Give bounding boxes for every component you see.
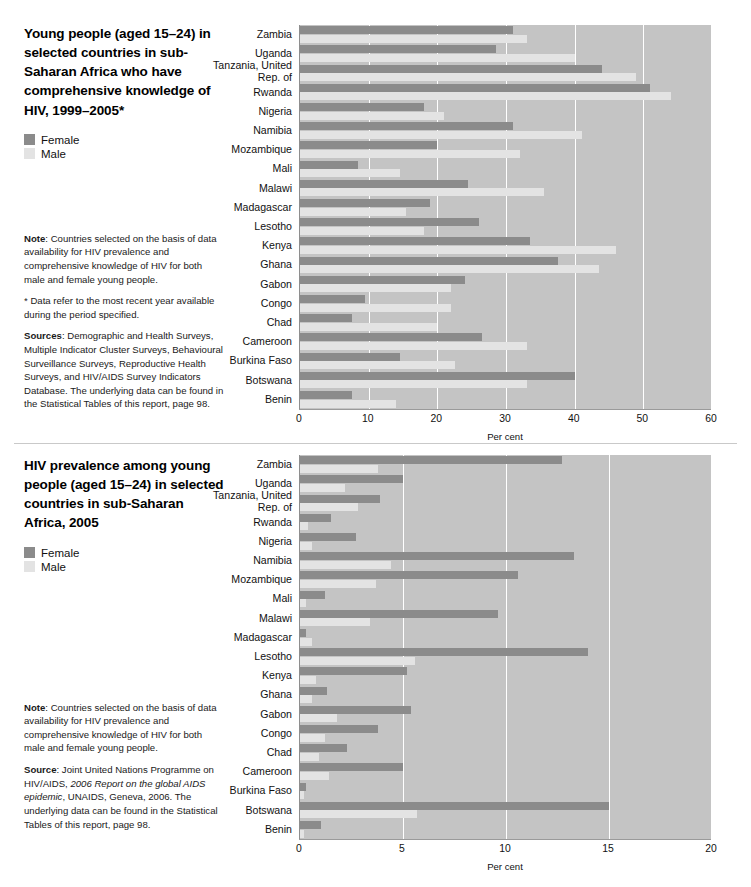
bar-male <box>300 208 406 216</box>
category-label: Lesotho <box>254 221 292 232</box>
bar-male <box>300 676 316 684</box>
bar-female <box>300 199 430 207</box>
bar-female <box>300 610 498 618</box>
x-axis-tick-label: 5 <box>399 843 405 854</box>
bar-female <box>300 475 403 483</box>
x-axis-tick-label: 10 <box>499 843 511 854</box>
bar-female <box>300 353 400 361</box>
bar-female <box>300 456 562 464</box>
gridline <box>506 455 507 839</box>
category-label: Cameroon <box>243 766 292 777</box>
bar-female <box>300 571 518 579</box>
category-label: Nigeria <box>258 536 292 547</box>
bar-female <box>300 744 347 752</box>
bar-female <box>300 648 588 656</box>
bar-female <box>300 725 378 733</box>
x-axis-title: Per cent <box>487 431 523 442</box>
category-label: Burkina Faso <box>230 355 292 366</box>
x-axis-tick-label: 20 <box>431 413 443 424</box>
bar-female <box>300 180 468 188</box>
bar-female <box>300 161 358 169</box>
bar-female <box>300 391 352 399</box>
bar-male <box>300 638 312 646</box>
category-label: Nigeria <box>258 106 292 117</box>
x-axis-tick-label: 15 <box>602 843 614 854</box>
category-label: Mozambique <box>231 144 292 155</box>
category-axis-labels: ZambiaUgandaTanzania, UnitedRep. ofRwand… <box>89 455 292 839</box>
bar-female <box>300 821 321 829</box>
legend-swatch-female <box>24 134 35 145</box>
bar-male <box>300 227 424 235</box>
gridline <box>369 25 370 409</box>
category-label: Congo <box>261 298 292 309</box>
bar-male <box>300 657 415 665</box>
category-label: Kenya <box>262 670 292 681</box>
gridline <box>403 455 404 839</box>
bar-male <box>300 150 520 158</box>
legend-label-female: Female <box>41 134 79 146</box>
category-label: Mali <box>273 593 292 604</box>
bar-female <box>300 667 407 675</box>
bar-male <box>300 73 636 81</box>
bar-male <box>300 599 306 607</box>
note-lead: Sources <box>24 330 62 341</box>
bar-male <box>300 284 451 292</box>
category-axis-labels: ZambiaUgandaTanzania, UnitedRep. ofRwand… <box>89 25 292 409</box>
category-label: Gabon <box>260 279 292 290</box>
bar-female <box>300 237 530 245</box>
panel-divider <box>14 443 737 444</box>
bar-female <box>300 591 325 599</box>
category-label: Tanzania, UnitedRep. of <box>213 60 292 83</box>
bar-male <box>300 734 325 742</box>
category-label: Namibia <box>253 555 292 566</box>
category-label: Madagascar <box>234 632 292 643</box>
bar-male <box>300 112 444 120</box>
gridline <box>643 25 644 409</box>
x-axis-tick-label: 40 <box>568 413 580 424</box>
bar-male <box>300 304 451 312</box>
category-label: Chad <box>267 747 292 758</box>
bar-male <box>300 753 319 761</box>
bar-male <box>300 54 575 62</box>
category-label: Lesotho <box>254 651 292 662</box>
category-label: Burkina Faso <box>230 785 292 796</box>
category-label: Mozambique <box>231 574 292 585</box>
category-label: Malawi <box>259 183 292 194</box>
bar-female <box>300 84 650 92</box>
bar-female <box>300 26 513 34</box>
category-label: Gabon <box>260 709 292 720</box>
plot-area <box>299 25 711 409</box>
legend-label-male: Male <box>41 148 66 160</box>
bar-male <box>300 561 391 569</box>
bar-female <box>300 276 465 284</box>
x-axis-tick-label: 0 <box>296 843 302 854</box>
x-axis-title: Per cent <box>487 861 523 872</box>
category-label: Benin <box>265 824 292 835</box>
bar-female <box>300 533 356 541</box>
x-axis-tick-label: 20 <box>705 843 717 854</box>
x-axis-line <box>299 839 711 840</box>
x-axis-tick-label: 50 <box>637 413 649 424</box>
category-label: Ghana <box>260 259 292 270</box>
bar-male <box>300 188 544 196</box>
note-lead: Source <box>24 764 57 775</box>
x-axis-line <box>299 409 711 410</box>
bar-male <box>300 618 370 626</box>
category-label: Congo <box>261 728 292 739</box>
bar-female <box>300 218 479 226</box>
bar-female <box>300 706 411 714</box>
bar-male <box>300 92 671 100</box>
bar-male <box>300 265 599 273</box>
gridline <box>506 25 507 409</box>
bar-female <box>300 314 352 322</box>
report-page: Young people (aged 15–24) in selected co… <box>0 0 751 887</box>
category-label: Zambia <box>257 459 292 470</box>
gridline <box>712 25 713 409</box>
bar-male <box>300 810 417 818</box>
bar-female <box>300 103 424 111</box>
bar-male <box>300 169 400 177</box>
bar-male <box>300 465 378 473</box>
x-axis-tick-label: 0 <box>296 413 302 424</box>
gridline <box>609 455 610 839</box>
bar-female <box>300 802 609 810</box>
